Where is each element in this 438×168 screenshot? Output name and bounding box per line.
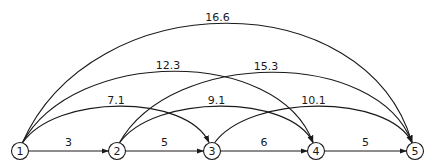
edge-label-2-to-5: 15.3 — [254, 60, 279, 73]
edge-1-to-5 — [22, 23, 412, 143]
edge-label-1-to-4: 12.3 — [156, 59, 181, 72]
edge-label-3-to-5: 10.1 — [301, 94, 326, 107]
edge-1-to-3 — [22, 106, 209, 143]
node-2: 2 — [109, 143, 126, 160]
node-label: 5 — [412, 145, 419, 158]
edge-label-1-to-2: 3 — [65, 136, 72, 149]
edge-label-1-to-3: 7.1 — [107, 94, 125, 107]
node-label: 2 — [114, 145, 121, 158]
node-4: 4 — [308, 143, 325, 160]
edge-label-2-to-3: 5 — [161, 136, 168, 149]
edges-layer — [22, 23, 412, 151]
edge-label-1-to-5: 16.6 — [205, 11, 230, 24]
network-diagram: 35657.19.110.112.315.316.6 12345 — [0, 0, 438, 168]
edge-label-4-to-5: 5 — [362, 136, 369, 149]
node-5: 5 — [407, 143, 424, 160]
node-label: 4 — [313, 145, 320, 158]
edge-2-to-4 — [119, 106, 313, 143]
node-label: 1 — [17, 145, 24, 158]
node-1: 1 — [12, 143, 29, 160]
node-3: 3 — [204, 143, 221, 160]
edge-3-to-5 — [214, 106, 412, 143]
graph-canvas: 35657.19.110.112.315.316.6 12345 — [0, 0, 438, 168]
edge-label-2-to-4: 9.1 — [208, 94, 226, 107]
edge-label-3-to-4: 6 — [261, 136, 268, 149]
node-label: 3 — [209, 145, 216, 158]
edge-2-to-5 — [119, 72, 412, 143]
